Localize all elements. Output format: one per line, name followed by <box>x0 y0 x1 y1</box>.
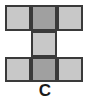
cell-row3-col3 <box>57 57 83 82</box>
cell-row1-col3 <box>57 5 83 31</box>
shape-figure: C <box>0 0 90 99</box>
cell-row1-col1 <box>5 5 31 31</box>
shape-label: C <box>0 82 90 99</box>
cell-row3-col1 <box>5 57 31 82</box>
cell-row2-col2 <box>31 31 57 57</box>
cell-row1-col2 <box>31 5 57 31</box>
cell-row3-col2 <box>31 57 57 82</box>
